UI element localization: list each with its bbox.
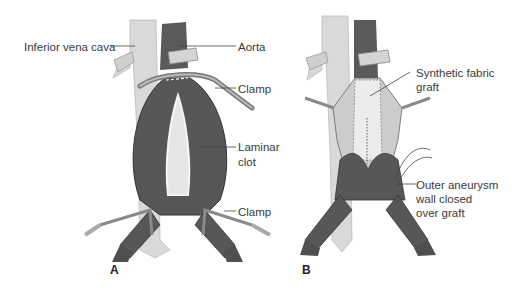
panel-letter-a: A [110,263,119,277]
label-wall-closed: wall closed [416,192,472,206]
label-clamp-top: Clamp [238,82,271,96]
label-clamp-bottom: Clamp [238,205,271,219]
label-aorta: Aorta [238,40,266,54]
iliac-vessels-b [305,195,428,252]
label-graft: graft [416,80,439,94]
label-clot: clot [238,155,256,169]
label-outer-aneurysm: Outer aneurysm [416,178,498,192]
panel-b-illustration [300,16,436,256]
label-over-graft: over graft [416,206,465,220]
iliac-vessels-a [120,210,235,258]
label-inferior-vena-cava: Inferior vena cava [24,40,115,54]
panel-letter-b: B [302,263,311,277]
label-laminar: Laminar [238,140,280,154]
label-synthetic-fabric: Synthetic fabric [416,66,495,80]
